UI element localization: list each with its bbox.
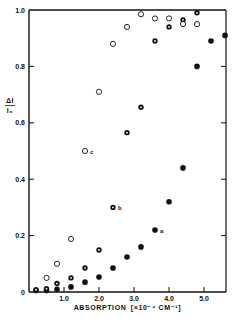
open-point xyxy=(124,24,129,29)
series-b xyxy=(33,10,199,292)
x-axis-label: ABSORPTION xyxy=(74,304,127,311)
filled-point xyxy=(124,254,130,260)
filled-point xyxy=(180,165,186,171)
open-point xyxy=(180,22,185,27)
dotted-point-center xyxy=(182,19,184,21)
series-label-c: c xyxy=(90,149,94,155)
filled-point xyxy=(138,244,144,250)
x-tick-label: 4.0 xyxy=(164,295,174,302)
y-axis-ticks: 00.20.40.60.81.0 xyxy=(15,7,226,296)
dotted-point-center xyxy=(168,26,170,28)
dotted-point-center xyxy=(70,277,72,279)
y-tick-label: 0.2 xyxy=(15,232,25,239)
dotted-point-center xyxy=(126,132,128,134)
filled-point xyxy=(54,286,60,292)
y-tick-label: 0.4 xyxy=(15,176,25,183)
y-axis-label-denominator: I₀ xyxy=(7,107,13,114)
open-point xyxy=(54,261,59,266)
dotted-point-center xyxy=(140,106,142,108)
series-a xyxy=(33,33,228,294)
filled-point xyxy=(208,38,214,44)
series-label-a: a xyxy=(160,228,164,234)
filled-point xyxy=(152,227,158,233)
x-axis-unit: [×10⁻⁴ CM⁻¹] xyxy=(131,304,181,312)
plot-frame xyxy=(29,10,226,292)
dotted-point-center xyxy=(154,40,156,42)
scatter-chart: 00.20.40.60.81.0 1.02.03.04.05.0 abc ΔI … xyxy=(0,0,234,318)
open-point xyxy=(44,275,49,280)
open-point xyxy=(110,41,115,46)
x-axis-ticks: 1.02.03.04.05.0 xyxy=(59,287,209,302)
x-tick-label: 3.0 xyxy=(129,295,139,302)
y-tick-label: 0.8 xyxy=(15,63,25,70)
filled-point xyxy=(222,33,228,39)
open-point xyxy=(194,22,199,27)
dotted-point-center xyxy=(98,249,100,251)
filled-point xyxy=(82,279,88,285)
filled-point xyxy=(96,274,102,280)
x-tick-label: 2.0 xyxy=(94,295,104,302)
x-tick-label: 5.0 xyxy=(199,295,209,302)
dotted-point-center xyxy=(56,283,58,285)
series-label-b: b xyxy=(118,205,122,211)
open-point xyxy=(166,16,171,21)
dotted-point-center xyxy=(112,207,114,209)
filled-point xyxy=(68,284,74,290)
filled-point xyxy=(194,64,200,70)
series-labels: abc xyxy=(90,149,164,234)
y-tick-label: 1.0 xyxy=(15,7,25,14)
dotted-point-center xyxy=(46,288,48,290)
open-point xyxy=(152,16,157,21)
dotted-point-center xyxy=(196,12,198,14)
dotted-point-center xyxy=(84,267,86,269)
dotted-point-center xyxy=(35,289,37,291)
open-point xyxy=(68,236,73,241)
y-tick-label: 0.6 xyxy=(15,119,25,126)
open-point xyxy=(138,12,143,17)
y-axis-label-numerator: ΔI xyxy=(6,97,14,104)
data-points xyxy=(33,10,228,293)
x-tick-label: 1.0 xyxy=(59,295,69,302)
open-point xyxy=(96,89,101,94)
filled-point xyxy=(110,265,116,271)
filled-point xyxy=(166,199,172,205)
open-point xyxy=(82,148,87,153)
series-c xyxy=(44,12,200,281)
y-tick-label: 0 xyxy=(21,289,25,296)
